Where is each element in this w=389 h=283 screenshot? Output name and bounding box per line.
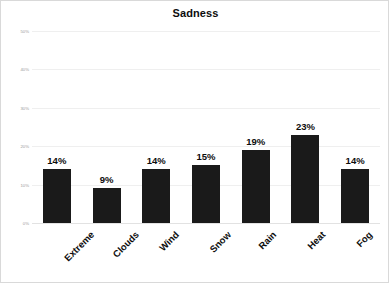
x-axis-tick: Fog <box>330 223 380 283</box>
bar-group[interactable]: 14% <box>330 31 380 223</box>
x-axis-tick: Heat <box>281 223 331 283</box>
bar-group[interactable]: 14% <box>131 31 181 223</box>
x-axis-tick-label: Rain <box>256 229 278 251</box>
y-axis-tick-label: 20% <box>7 144 29 149</box>
x-axis-tick: Extreme <box>32 223 82 283</box>
y-axis-tick-label: 0% <box>7 221 29 226</box>
bar-group[interactable]: 9% <box>82 31 132 223</box>
chart-container: Sadness 0%10%20%30%40%50% 14%9%14%15%19%… <box>0 0 389 283</box>
x-axis-tick: Clouds <box>82 223 132 283</box>
x-axis: ExtremeCloudsWindSnowRainHeatFog <box>32 223 380 283</box>
bar[interactable] <box>242 150 270 223</box>
x-axis-tick-label: Wind <box>157 229 181 253</box>
x-axis-tick-label: Snow <box>207 229 233 255</box>
bar[interactable] <box>93 188 121 223</box>
x-axis-tick-label: Heat <box>305 229 327 251</box>
bar-value-label: 9% <box>100 174 114 185</box>
y-axis-tick-label: 30% <box>7 105 29 110</box>
bar-value-label: 19% <box>246 136 265 147</box>
bar-series: 14%9%14%15%19%23%14% <box>32 31 380 223</box>
bar[interactable] <box>341 169 369 223</box>
bar[interactable] <box>291 135 319 223</box>
y-axis: 0%10%20%30%40%50% <box>4 31 29 223</box>
y-axis-tick-label: 10% <box>7 182 29 187</box>
bar-group[interactable]: 14% <box>32 31 82 223</box>
x-axis-tick-label: Fog <box>354 229 374 249</box>
bar-group[interactable]: 19% <box>231 31 281 223</box>
bar-value-label: 14% <box>47 155 66 166</box>
x-axis-tick: Wind <box>131 223 181 283</box>
y-axis-tick-label: 50% <box>7 29 29 34</box>
bar[interactable] <box>142 169 170 223</box>
bar-value-label: 14% <box>346 155 365 166</box>
y-axis-tick-label: 40% <box>7 67 29 72</box>
x-axis-tick: Rain <box>231 223 281 283</box>
chart-title: Sadness <box>1 7 389 19</box>
bar[interactable] <box>192 165 220 223</box>
bar-value-label: 15% <box>196 151 215 162</box>
bar-value-label: 23% <box>296 121 315 132</box>
bar[interactable] <box>43 169 71 223</box>
x-axis-tick: Snow <box>181 223 231 283</box>
bar-group[interactable]: 15% <box>181 31 231 223</box>
bar-value-label: 14% <box>147 155 166 166</box>
bar-group[interactable]: 23% <box>281 31 331 223</box>
